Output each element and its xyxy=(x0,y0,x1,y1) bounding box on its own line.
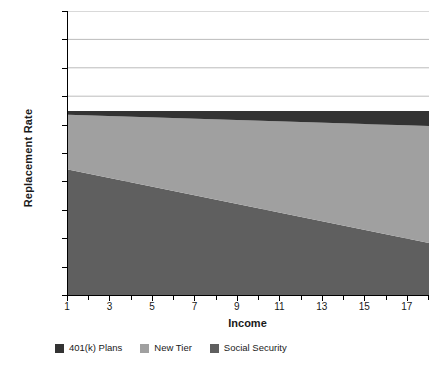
x-axis-tick-label: 17 xyxy=(392,302,422,312)
x-axis-minor-tick-mark xyxy=(258,296,259,300)
x-axis-tick-mark xyxy=(109,296,110,301)
chart-legend: 401(k) PlansNew TierSocial Security xyxy=(55,343,287,353)
replacement-rate-stacked-area-chart: Replacement Rate 100%90%80%70%60%50%40%3… xyxy=(0,0,445,366)
legend-label: New Tier xyxy=(154,343,191,353)
legend-item: New Tier xyxy=(140,343,191,353)
x-axis-tick-mark xyxy=(364,296,365,301)
x-axis-minor-tick-mark xyxy=(343,296,344,300)
stacked-area-series-group xyxy=(68,11,429,295)
x-axis-minor-tick-mark xyxy=(216,296,217,300)
legend-swatch-icon xyxy=(210,344,219,353)
legend-label: Social Security xyxy=(224,343,287,353)
x-axis-tick-mark xyxy=(407,296,408,301)
x-axis-title: Income xyxy=(67,317,428,329)
x-axis-minor-tick-mark xyxy=(428,296,429,300)
x-axis-tick-label: 9 xyxy=(222,302,252,312)
x-axis-tick-mark xyxy=(322,296,323,301)
plot-area xyxy=(67,11,429,296)
x-axis-minor-tick-mark xyxy=(173,296,174,300)
x-axis-minor-tick-mark xyxy=(88,296,89,300)
x-axis-tick-label: 1 xyxy=(52,302,82,312)
x-axis-tick-label: 7 xyxy=(179,302,209,312)
legend-swatch-icon xyxy=(55,344,64,353)
x-axis-tick-mark xyxy=(279,296,280,301)
x-axis-minor-tick-mark xyxy=(131,296,132,300)
legend-item: 401(k) Plans xyxy=(55,343,122,353)
legend-label: 401(k) Plans xyxy=(69,343,122,353)
x-axis-minor-tick-mark xyxy=(301,296,302,300)
x-axis-tick-label: 15 xyxy=(349,302,379,312)
x-axis-tick-mark xyxy=(194,296,195,301)
x-axis-tick-mark xyxy=(237,296,238,301)
x-axis-tick-label: 11 xyxy=(264,302,294,312)
x-axis-tick-mark xyxy=(67,296,68,301)
x-axis-minor-tick-mark xyxy=(386,296,387,300)
legend-swatch-icon xyxy=(140,344,149,353)
legend-item: Social Security xyxy=(210,343,287,353)
x-axis-tick-label: 13 xyxy=(307,302,337,312)
x-axis-tick-mark xyxy=(152,296,153,301)
x-axis-tick-label: 5 xyxy=(137,302,167,312)
x-axis-tick-label: 3 xyxy=(94,302,124,312)
